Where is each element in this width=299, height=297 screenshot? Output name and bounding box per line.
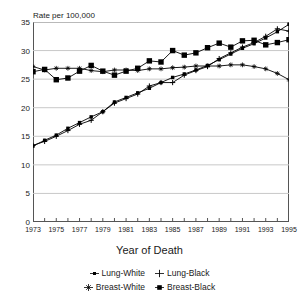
- data-point: [100, 68, 105, 73]
- x-tick-label: 1983: [142, 226, 158, 233]
- y-tick-label: 35: [21, 18, 30, 27]
- data-point: [286, 37, 289, 42]
- x-tick-label: 1977: [72, 226, 88, 233]
- legend-row-1: Lung-White Lung-Black: [0, 266, 299, 280]
- data-point: [240, 38, 245, 43]
- x-tick-label: 1981: [118, 226, 134, 233]
- chart-canvas: [33, 22, 289, 222]
- y-axis-ticks: 05101520253035: [0, 22, 30, 222]
- legend-label: Breast-White: [96, 282, 145, 292]
- series-line: [33, 29, 289, 146]
- y-tick-label: 15: [21, 132, 30, 141]
- data-point: [171, 76, 174, 79]
- legend-label: Lung-Black: [167, 268, 210, 278]
- legend-label: Lung-White: [102, 268, 145, 278]
- data-point: [123, 68, 128, 73]
- legend-label: Breast-Black: [167, 282, 215, 292]
- data-point: [54, 77, 59, 82]
- plus-marker-icon: [155, 269, 164, 278]
- data-point: [251, 38, 256, 43]
- y-tick-label: 25: [21, 75, 30, 84]
- x-tick-label: 1991: [235, 226, 251, 233]
- data-point: [65, 75, 70, 80]
- legend-item-lung-black: Lung-Black: [155, 268, 210, 278]
- data-point: [147, 58, 152, 63]
- data-point: [170, 48, 175, 53]
- y-axis-title: Rate per 100,000: [33, 11, 95, 20]
- data-point: [42, 67, 47, 72]
- y-tick-label: 20: [21, 103, 30, 112]
- series-lung-black: [33, 26, 289, 148]
- y-tick-label: 10: [21, 160, 30, 169]
- chart-figure: Rate per 100,000 05101520253035 19731975…: [0, 0, 299, 297]
- x-axis-ticks: 1973197519771979198119831985198719891991…: [33, 226, 289, 238]
- data-point: [275, 40, 280, 45]
- x-tick-label: 1973: [25, 226, 41, 233]
- y-tick-label: 30: [21, 46, 30, 55]
- data-point: [205, 45, 210, 50]
- x-tick-label: 1985: [165, 226, 181, 233]
- legend-item-breast-black: Breast-Black: [155, 282, 215, 292]
- data-point: [228, 44, 233, 49]
- data-point: [263, 42, 268, 47]
- chart-legend: Lung-White Lung-Black Breast-White: [0, 266, 299, 294]
- plot-area: [33, 22, 289, 222]
- data-point: [182, 52, 187, 57]
- x-tick-label: 1995: [281, 226, 297, 233]
- legend-item-lung-white: Lung-White: [90, 268, 145, 278]
- data-point: [77, 68, 82, 73]
- y-tick-label: 5: [26, 189, 30, 198]
- data-point: [88, 63, 93, 68]
- x-tick-label: 1993: [258, 226, 274, 233]
- legend-row-2: Breast-White Breast-Black: [0, 280, 299, 294]
- data-point: [112, 72, 117, 77]
- x-axis-title: Year of Death: [0, 244, 299, 256]
- data-point: [135, 66, 140, 71]
- x-tick-label: 1975: [48, 226, 64, 233]
- legend-item-breast-white: Breast-White: [84, 282, 145, 292]
- x-tick-label: 1989: [211, 226, 227, 233]
- data-point: [193, 50, 198, 55]
- data-point: [287, 23, 289, 26]
- x-tick-label: 1987: [188, 226, 204, 233]
- data-point: [33, 69, 36, 74]
- small-square-marker-icon: [90, 269, 99, 278]
- big-square-marker-icon: [155, 283, 164, 292]
- x-tick-label: 1979: [95, 226, 111, 233]
- star-marker-icon: [84, 283, 93, 292]
- data-point: [216, 40, 221, 45]
- data-point: [158, 59, 163, 64]
